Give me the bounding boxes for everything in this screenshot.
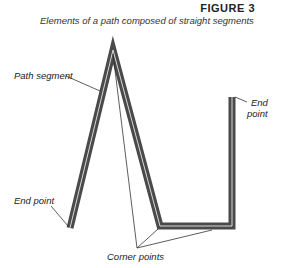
label-corner-points: Corner points	[107, 251, 164, 262]
label-path-segment: Path segment	[14, 70, 73, 81]
label-end-point-left: End point	[14, 195, 54, 206]
path-diagram	[0, 0, 282, 268]
label-end-point-right-line1: End	[251, 97, 268, 108]
leader-corner-bottom-right	[137, 230, 212, 248]
leader-end-point-right	[235, 97, 247, 102]
label-end-point-right-line2: point	[247, 108, 268, 119]
leader-end-point-left	[51, 206, 68, 226]
path-stroke	[70, 50, 232, 228]
